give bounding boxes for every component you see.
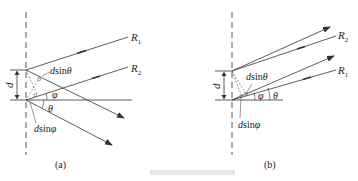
phi-arc: [254, 93, 255, 100]
panel-a: d R1 R2 dsinθ dsinφ φ θ (a): [3, 12, 142, 171]
r2-label: R2: [130, 62, 142, 77]
theta-arc: [268, 88, 270, 100]
dsin-theta-label: dsinθ: [246, 71, 268, 82]
d-label: d: [210, 83, 222, 89]
panel-b-caption: (b): [264, 159, 276, 171]
phi-label: φ: [52, 89, 58, 100]
figure-caption-faint: [150, 170, 235, 175]
dsin-phi-label: dsinφ: [34, 123, 57, 134]
ray-r1-reflected: [26, 70, 124, 118]
phi-arc: [46, 94, 47, 101]
panel-b: d R2 R1 dsinθ dsinφ φ θ (b): [210, 12, 349, 171]
theta-arc: [42, 100, 44, 108]
path-diff-dashed-2: [232, 71, 246, 94]
theta-label: θ: [273, 90, 278, 101]
path-diff-dashed-1: [232, 71, 242, 97]
r1-label: R1: [337, 64, 349, 79]
phi-label: φ: [258, 90, 264, 101]
d-label: d: [3, 82, 15, 88]
ray-r2-incoming: [232, 36, 336, 71]
r1-label: R1: [130, 31, 142, 46]
dsin-phi-label: dsinφ: [238, 119, 261, 130]
diagram-canvas: d R1 R2 dsinθ dsinφ φ θ (a): [0, 0, 358, 181]
dsin-theta-label: dsinθ: [50, 65, 72, 76]
r2-label: R2: [337, 29, 349, 44]
theta-label: θ: [48, 103, 53, 114]
panel-a-caption: (a): [55, 159, 66, 171]
